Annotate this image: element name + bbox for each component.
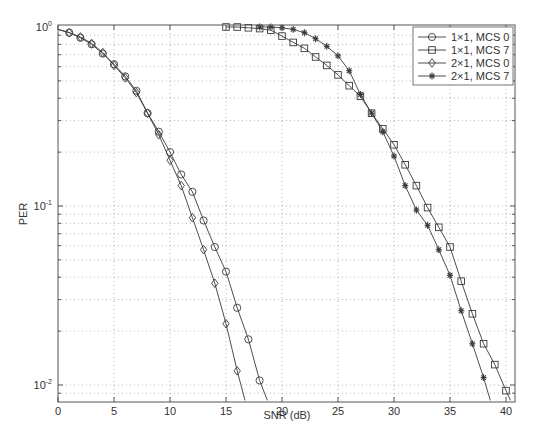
star-marker <box>357 91 363 98</box>
series-line <box>58 29 267 400</box>
y-tick-labels: 10010-110-2 <box>34 20 53 391</box>
x-tick-label: 40 <box>500 405 512 417</box>
x-tick-label: 35 <box>444 405 456 417</box>
star-marker <box>469 340 475 347</box>
star-marker <box>425 222 431 229</box>
star-marker <box>447 272 453 279</box>
x-tick-label: 30 <box>388 405 400 417</box>
x-tick-label: 15 <box>220 405 232 417</box>
y-tick-label: 10-1 <box>34 199 53 212</box>
x-axis-label: SNR (dB) <box>263 409 310 421</box>
x-tick-label: 0 <box>55 405 61 417</box>
legend-label: 2×1, MCS 7 <box>451 70 509 82</box>
x-tick-label: 5 <box>111 405 117 417</box>
y-tick-label: 100 <box>36 20 52 33</box>
star-marker <box>380 128 386 135</box>
star-marker <box>290 26 296 33</box>
star-marker <box>324 43 330 50</box>
series-circle <box>58 29 267 400</box>
star-marker <box>335 52 341 59</box>
star-marker <box>402 182 408 189</box>
star-marker <box>458 307 464 314</box>
legend-label: 2×1, MCS 0 <box>451 57 509 69</box>
legend-label: 1×1, MCS 0 <box>451 31 509 43</box>
star-marker <box>429 73 435 80</box>
x-tick-label: 25 <box>332 405 344 417</box>
star-marker <box>436 246 442 253</box>
legend: 1×1, MCS 01×1, MCS 72×1, MCS 02×1, MCS 7 <box>413 27 513 85</box>
x-tick-label: 10 <box>164 405 176 417</box>
star-marker <box>391 153 397 160</box>
star-marker <box>346 67 352 74</box>
star-marker <box>313 35 319 42</box>
per-vs-snr-chart: 0510152025303540 10010-110-2 SNR (dB) PE… <box>0 0 537 441</box>
star-marker <box>301 29 307 36</box>
y-tick-label: 10-2 <box>34 378 53 391</box>
legend-item: 2×1, MCS 0 <box>418 57 509 69</box>
star-marker <box>413 206 419 213</box>
legend-label: 1×1, MCS 7 <box>451 44 509 56</box>
y-axis-label: PER <box>17 203 29 226</box>
star-marker <box>369 110 375 117</box>
star-marker <box>481 374 487 381</box>
series-line <box>58 29 245 400</box>
